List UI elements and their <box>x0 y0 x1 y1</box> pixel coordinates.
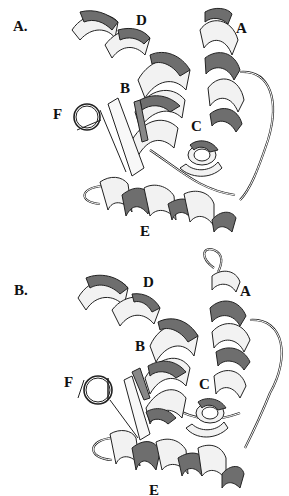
helix-label-b: B <box>135 338 145 355</box>
helix-label-d: D <box>143 274 154 291</box>
helix-label-c: C <box>199 376 210 393</box>
helix-label-f: F <box>53 106 62 123</box>
panel-b: B. D A B F C E <box>0 248 289 496</box>
ribbon-diagram-a <box>0 0 289 248</box>
panel-label-b: B. <box>14 282 28 299</box>
panel-label-a: A. <box>13 18 28 35</box>
helix-label-b: B <box>120 80 130 97</box>
helix-label-a: A <box>236 20 247 37</box>
helix-label-c: C <box>191 118 202 135</box>
helix-label-e: E <box>149 482 159 496</box>
helix-label-f: F <box>64 374 73 391</box>
panel-a: A. D A B F C E <box>0 0 289 248</box>
helix-label-a: A <box>240 283 251 300</box>
helix-label-e: E <box>140 223 150 240</box>
helix-label-d: D <box>136 12 147 29</box>
